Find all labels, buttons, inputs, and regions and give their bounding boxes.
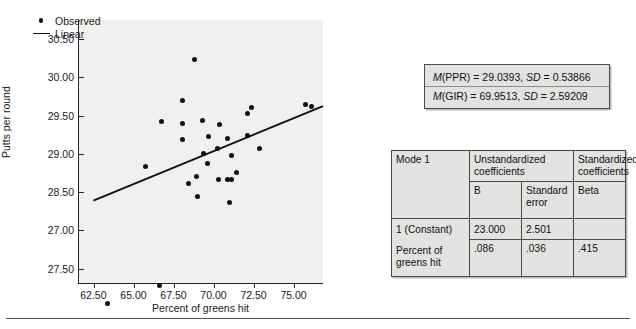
legend-item-linear: Linear bbox=[30, 27, 101, 40]
data-point bbox=[192, 57, 197, 62]
x-axis-tick-label: 65.00 bbox=[120, 283, 146, 301]
plot-area: 30.5030.0029.5029.0028.5027.0027.50 62.5… bbox=[78, 20, 323, 284]
table-header-row-group: Mode 1 Unstandardized coefficients Stand… bbox=[392, 151, 626, 182]
column-header-b: B bbox=[470, 182, 522, 219]
data-point bbox=[180, 98, 185, 103]
table-row: 1 (Constant) Percent of greens hit 23.00… bbox=[392, 219, 626, 240]
y-axis-title: Putts per round bbox=[0, 86, 12, 158]
x-axis-tick-label: 62.50 bbox=[80, 283, 106, 301]
stats-line-gir: M(GIR) = 69.9513, SD = 2.59209 bbox=[425, 86, 609, 105]
ppr-mean-symbol: M bbox=[433, 71, 442, 83]
data-point bbox=[227, 200, 232, 205]
data-point bbox=[200, 118, 205, 123]
linear-line-icon bbox=[30, 33, 52, 34]
data-point bbox=[257, 146, 262, 151]
y-axis-tick-label: 29.00 bbox=[48, 148, 79, 160]
data-point bbox=[234, 170, 239, 175]
cell-constant-b: 23.000 bbox=[470, 219, 522, 240]
gir-mean-value: (GIR) = 69.9513, bbox=[442, 90, 523, 102]
data-point bbox=[180, 121, 185, 126]
y-axis-tick-label: 29.50 bbox=[48, 110, 79, 122]
legend-label-linear: Linear bbox=[52, 28, 84, 40]
data-point bbox=[180, 137, 185, 142]
ppr-sd-value: = 0.53866 bbox=[541, 71, 591, 83]
data-point bbox=[229, 153, 234, 158]
row-label-greens-hit: Percent of greens hit bbox=[396, 245, 465, 269]
data-point bbox=[195, 194, 200, 199]
data-point bbox=[217, 122, 222, 127]
column-header-beta: Beta bbox=[574, 182, 626, 219]
ppr-mean-value: (PPR) = 29.0393, bbox=[442, 71, 526, 83]
y-axis-tick-label: 27.50 bbox=[48, 263, 79, 275]
data-point bbox=[225, 136, 230, 141]
scatter-plot-panel: Putts per round 30.5030.0029.5029.0028.5… bbox=[8, 6, 344, 312]
legend-item-observed: Observed bbox=[30, 14, 101, 27]
stats-line-ppr: M(PPR) = 29.0393, SD = 0.53866 bbox=[425, 68, 609, 86]
data-point bbox=[143, 164, 148, 169]
y-axis-tick-label: 30.00 bbox=[48, 71, 79, 83]
cell-greens-std-error: .036 bbox=[522, 240, 574, 277]
x-axis-tick-label: 67.50 bbox=[160, 283, 186, 301]
x-axis-title: Percent of greens hit bbox=[78, 302, 323, 314]
descriptive-stats-box: M(PPR) = 29.0393, SD = 0.53866 M(GIR) = … bbox=[424, 64, 610, 109]
chart-legend: Observed Linear bbox=[30, 14, 101, 40]
data-point bbox=[201, 151, 206, 156]
data-point bbox=[303, 102, 308, 107]
x-axis-tick-label: 72.50 bbox=[240, 283, 266, 301]
cell-greens-b: .086 bbox=[470, 240, 522, 277]
gir-sd-value: = 2.59209 bbox=[538, 90, 588, 102]
column-header-std-error: Standard error bbox=[522, 182, 574, 219]
y-axis-tick-label: 28.50 bbox=[48, 186, 79, 198]
x-axis-tick-label: 75.00 bbox=[280, 283, 306, 301]
unstandardized-header-cell: Unstandardized coefficients bbox=[470, 151, 574, 182]
legend-label-observed: Observed bbox=[52, 15, 101, 27]
gir-sd-symbol: SD bbox=[523, 90, 538, 102]
cell-constant-std-error: 2.501 bbox=[522, 219, 574, 240]
figure-bottom-rule bbox=[6, 318, 630, 319]
coefficients-table: Mode 1 Unstandardized coefficients Stand… bbox=[391, 150, 626, 277]
ppr-sd-symbol: SD bbox=[526, 71, 541, 83]
observed-dot-icon bbox=[30, 18, 52, 23]
regression-figure: Putts per round 30.5030.0029.5029.0028.5… bbox=[0, 0, 636, 329]
x-axis-tick-label: 70.00 bbox=[200, 283, 226, 301]
cell-greens-beta: .415 bbox=[574, 240, 626, 277]
row-label-constant: 1 (Constant) bbox=[396, 224, 465, 236]
standardized-header-cell: Standardized coefficients bbox=[574, 151, 626, 182]
row-labels-cell: 1 (Constant) Percent of greens hit bbox=[392, 219, 470, 277]
y-axis-tick-label: 27.00 bbox=[48, 224, 79, 236]
cell-constant-beta bbox=[574, 219, 626, 240]
model-label-cell: Mode 1 bbox=[392, 151, 470, 219]
gir-mean-symbol: M bbox=[433, 90, 442, 102]
